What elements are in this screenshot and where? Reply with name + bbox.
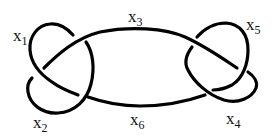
label-x2: x2	[33, 114, 48, 134]
label-x1: x1	[13, 27, 28, 47]
label-x4: x4	[226, 110, 241, 130]
label-x5: x5	[246, 16, 261, 36]
label-x3: x3	[128, 8, 143, 28]
arc-x4	[186, 47, 257, 101]
arc-x6	[88, 95, 205, 106]
label-x6: x6	[130, 111, 145, 131]
